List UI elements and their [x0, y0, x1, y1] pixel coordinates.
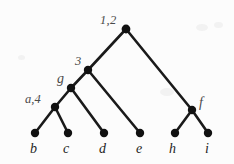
- edge-root-n3: [88, 29, 126, 70]
- leaf-label-b: b: [30, 142, 37, 156]
- edge-root-f: [126, 29, 192, 110]
- node-a4: [51, 103, 59, 111]
- node-e: [136, 129, 144, 137]
- leaf-label-d: d: [99, 142, 106, 156]
- edge-f-i: [192, 110, 208, 133]
- node-label-f: f: [199, 96, 203, 110]
- edge-a4-b: [35, 107, 55, 133]
- scan-artifact: [196, 24, 208, 31]
- node-h: [171, 129, 179, 137]
- node-label-a4: a,4: [25, 93, 41, 106]
- scan-artifact: [18, 55, 25, 60]
- scan-artifact: [160, 88, 174, 96]
- node-3: [84, 66, 92, 74]
- leaf-label-e: e: [136, 142, 142, 156]
- edge-g-d: [71, 88, 104, 133]
- node-f: [188, 106, 196, 114]
- node-g: [67, 84, 75, 92]
- node-label-root: 1,2: [100, 14, 117, 27]
- node-c: [64, 129, 72, 137]
- leaf-label-h: h: [169, 142, 176, 156]
- node-root: [122, 25, 131, 34]
- node-label-g: g: [57, 72, 64, 86]
- leaf-label-c: c: [63, 142, 69, 156]
- scan-artifact: [214, 22, 223, 28]
- node-d: [100, 129, 108, 137]
- tree-diagram-figure: 1,2 3 g a,4 f b c d e h i: [0, 0, 234, 164]
- edge-a4-c: [55, 107, 68, 133]
- node-label-3: 3: [75, 55, 81, 68]
- node-i: [204, 129, 212, 137]
- node-b: [31, 129, 39, 137]
- edge-f-h: [175, 110, 192, 133]
- leaf-label-i: i: [205, 142, 209, 156]
